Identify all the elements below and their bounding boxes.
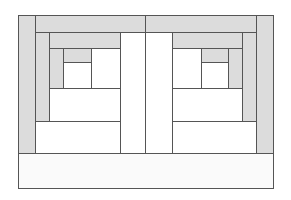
quilt-piece-top-left	[35, 15, 146, 33]
quilt-piece-L-center-top	[63, 48, 92, 63]
quilt-piece-R-bottom-2	[172, 121, 257, 154]
quilt-piece-R-strip2-top	[172, 32, 243, 49]
quilt-piece-R-outer-right	[256, 15, 274, 154]
quilt-piece-R-center-top	[201, 48, 229, 63]
quilt-piece-R-left-col	[172, 48, 202, 89]
quilt-piece-R-strip2-right	[242, 32, 257, 122]
quilt-piece-R-center	[201, 62, 229, 89]
quilt-piece-L-bottom-2	[35, 121, 121, 154]
quilt-piece-mid-left	[120, 32, 146, 154]
quilt-piece-L-outer-left	[18, 15, 36, 154]
quilt-piece-R-strip3-right	[228, 48, 243, 89]
quilt-piece-top-right	[145, 15, 257, 33]
quilt-piece-L-strip2-top	[49, 32, 121, 49]
quilt-piece-mid-right	[145, 32, 173, 154]
quilt-piece-R-bottom-1	[172, 88, 243, 122]
quilt-piece-L-strip3-left	[49, 48, 64, 89]
quilt-piece-L-center	[63, 62, 92, 89]
quilt-piece-base-bar	[18, 153, 274, 189]
quilt-piece-L-strip2-left	[35, 32, 50, 122]
quilt-piece-L-bottom-1	[49, 88, 121, 122]
quilt-piece-L-right-col	[91, 48, 121, 89]
